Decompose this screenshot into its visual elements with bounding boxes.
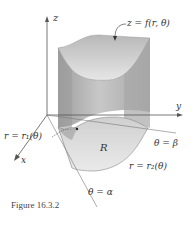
- inner-curve-label: r = r₁(θ): [4, 132, 42, 141]
- x-axis-label: x: [21, 156, 26, 165]
- surface-label: z = f(r, θ): [127, 19, 170, 28]
- figure-caption: Figure 16.3.2: [11, 201, 59, 210]
- z-axis-arrow-icon: [45, 16, 49, 22]
- outer-curve-label: r = r₂(θ): [129, 162, 167, 171]
- region-label: R: [100, 143, 108, 153]
- r1-leader-dot-icon: [76, 128, 78, 130]
- ray-alpha-label: θ = α: [88, 188, 113, 197]
- y-axis-label: y: [176, 102, 181, 111]
- x-axis-arrow-icon: [14, 154, 20, 161]
- surface-leader: [115, 24, 126, 37]
- ray-beta-label: θ = β: [154, 139, 178, 148]
- z-axis-label: z: [53, 13, 58, 23]
- y-axis-arrow-icon: [177, 113, 183, 117]
